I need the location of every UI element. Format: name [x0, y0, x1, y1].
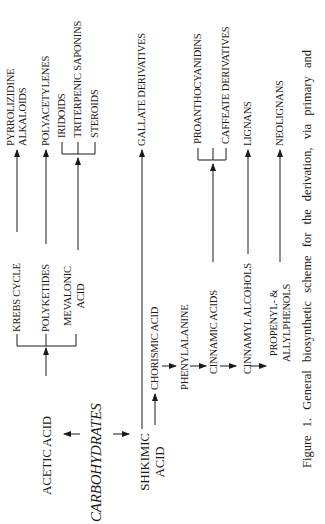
biosynthetic-diagram: ACETIC ACID CARBOHYDRATES SHIKIMIC ACID …	[0, 0, 325, 524]
node-propenyl-line2: ALLYLPHENOLS	[281, 282, 292, 364]
node-iridoids: IRIDOIDS	[56, 94, 67, 138]
node-chorismic-acid: CHORISMIC ACID	[149, 307, 160, 390]
node-krebs-cycle: KREBS CYCLE	[11, 263, 22, 332]
node-acetic-acid: ACETIC ACID	[40, 416, 54, 495]
node-propenyl-line1: PROPENYL- &	[268, 282, 279, 364]
node-lignans: LIGNANS	[242, 101, 253, 146]
node-caffeate-derivatives: CAFFEATE DERIVATIVES	[220, 27, 231, 144]
node-cinnamyl-alcohols: CINNAMYL ALCOHOLS	[242, 263, 253, 374]
node-triterpenic-saponins: TRITERPENIC SAPONINS	[72, 21, 83, 138]
figure-caption: Figure 1. General biosynthetic scheme fo…	[300, 50, 315, 468]
node-mevalonic-acid-line1: MEVALONIC	[62, 260, 73, 332]
node-pyrrolizidine-line2: ALKALOIDS	[17, 88, 28, 146]
node-gallate-derivatives: GALLATE DERIVATIVES	[136, 33, 147, 146]
node-mevalonic-acid-line2: ACID	[75, 260, 86, 332]
node-shikimic-acid-line1: SHIKIMIC	[138, 430, 152, 494]
node-pyrrolizidine-line1: PYRROLIZIDINE	[5, 69, 16, 146]
node-carbohydrates: CARBOHYDRATES	[89, 403, 103, 522]
node-polyacetylenes: POLYACETYLENES	[40, 56, 51, 146]
node-cinnamic-acids: CINNAMIC ACIDS	[208, 290, 219, 374]
node-proanthocyanidins: PROANTHOCYANIDINS	[192, 34, 203, 144]
node-phenylalanine: PHENYLALANINE	[179, 305, 190, 390]
node-steroids: STEROIDS	[89, 89, 100, 138]
node-shikimic-acid-line2: ACID	[153, 430, 167, 494]
node-neolignans: NEOLIGNANS	[274, 80, 285, 146]
node-polyketides: POLYKETIDES	[40, 264, 51, 332]
